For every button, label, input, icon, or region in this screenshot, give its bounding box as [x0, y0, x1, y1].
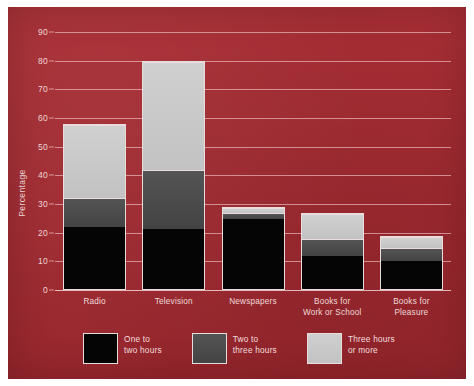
bar-segment-0	[302, 256, 363, 289]
gridline-60	[55, 118, 451, 119]
y-tick-label-30: 30	[18, 199, 48, 209]
bar-segment-2	[381, 237, 442, 248]
y-tick-label-20: 20	[18, 228, 48, 238]
y-tick-label-80: 80	[18, 56, 48, 66]
bar-books-for-pleasure[interactable]	[380, 236, 443, 290]
y-tick-label-40: 40	[18, 170, 48, 180]
bar-television[interactable]	[142, 61, 205, 290]
gridline-0	[55, 290, 451, 291]
y-tickmark-50	[49, 146, 54, 147]
x-axis-label-2: Newspapers	[213, 297, 292, 308]
y-tick-label-70: 70	[18, 84, 48, 94]
chart-legend: One to two hoursTwo to three hoursThree …	[83, 333, 395, 364]
y-tickmark-60	[49, 118, 54, 119]
gridline-70	[55, 89, 451, 90]
x-axis-label-4: Books for Pleasure	[372, 297, 451, 318]
y-tick-label-10: 10	[18, 256, 48, 266]
legend-swatch-0	[83, 333, 118, 364]
bar-segment-2	[64, 125, 125, 199]
legend-swatch-1	[192, 333, 227, 364]
legend-label-2: Three hours or more	[348, 333, 395, 355]
bar-segment-0	[64, 227, 125, 289]
bar-segment-1	[381, 248, 442, 262]
y-tickmark-70	[49, 89, 54, 90]
legend-label-0: One to two hours	[124, 333, 162, 355]
y-tickmark-30	[49, 204, 54, 205]
y-tickmark-0	[49, 290, 54, 291]
y-tick-label-50: 50	[18, 142, 48, 152]
chart-board: Percentage 0102030405060708090RadioTelev…	[8, 7, 466, 379]
bar-segment-0	[381, 261, 442, 289]
y-tick-label-90: 90	[18, 27, 48, 37]
gridline-80	[55, 61, 451, 62]
legend-swatch-2	[307, 333, 342, 364]
plot-area: 0102030405060708090RadioTelevisionNewspa…	[55, 32, 451, 290]
bar-radio[interactable]	[63, 124, 126, 290]
y-tick-label-0: 0	[18, 285, 48, 295]
bar-segment-1	[64, 198, 125, 226]
y-tickmark-90	[49, 32, 54, 33]
bar-segment-0	[223, 219, 284, 289]
gridline-90	[55, 32, 451, 33]
bar-segment-2	[302, 214, 363, 239]
bar-segment-1	[302, 239, 363, 256]
x-axis-label-0: Radio	[55, 297, 134, 308]
legend-item-0[interactable]: One to two hours	[83, 333, 162, 364]
legend-label-1: Two to three hours	[233, 333, 277, 355]
y-tickmark-10	[49, 261, 54, 262]
legend-item-1[interactable]: Two to three hours	[192, 333, 277, 364]
y-tick-label-60: 60	[18, 113, 48, 123]
x-axis-label-3: Books for Work or School	[293, 297, 372, 318]
bar-segment-0	[143, 229, 204, 289]
y-tickmark-20	[49, 232, 54, 233]
y-tickmark-40	[49, 175, 54, 176]
bar-newspapers[interactable]	[222, 207, 285, 290]
legend-item-2[interactable]: Three hours or more	[307, 333, 395, 364]
bar-segment-2	[143, 62, 204, 170]
y-tickmark-80	[49, 60, 54, 61]
x-axis-label-1: Television	[134, 297, 213, 308]
bar-books-for-work-or-school[interactable]	[301, 213, 364, 290]
bar-segment-1	[143, 170, 204, 230]
chart-page: Percentage 0102030405060708090RadioTelev…	[0, 0, 474, 386]
